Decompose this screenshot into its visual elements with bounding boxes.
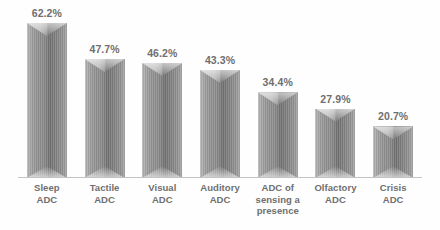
bar-top-facet: [85, 59, 125, 72]
category-label-sleep-adc: Sleep ADC: [18, 182, 76, 228]
bar-column[interactable]: 43.3%: [191, 4, 249, 178]
bar-value-label: 20.7%: [378, 110, 408, 122]
bar-top-highlight: [27, 23, 67, 36]
bar-value-label: 62.2%: [32, 7, 62, 19]
bar-top-facet: [258, 92, 298, 105]
bar-chart: 62.2% 47.7% 46.2% 43.3%: [0, 0, 440, 230]
bar-value-label: 43.3%: [205, 54, 235, 66]
bar-olfactory-adc[interactable]: [315, 109, 355, 179]
bar-top-facet: [27, 23, 67, 36]
bar-tactile-adc[interactable]: [85, 59, 125, 178]
bar-top-facet: [142, 63, 182, 76]
bar-top-facet: [200, 70, 240, 83]
category-label-auditory-adc: Auditory ADC: [191, 182, 249, 228]
bar-value-label: 46.2%: [147, 47, 177, 59]
category-label-adc-of-sensing-a-presence: ADC of sensing a presence: [249, 182, 307, 228]
category-label-crisis-adc: Crisis ADC: [364, 182, 422, 228]
bar-auditory-adc[interactable]: [200, 70, 240, 178]
bar-visual-adc[interactable]: [142, 63, 182, 178]
bar-top-highlight: [315, 109, 355, 122]
x-axis-category-labels: Sleep ADC Tactile ADC Visual ADC Auditor…: [18, 182, 422, 228]
bar-crisis-adc[interactable]: [373, 126, 413, 178]
category-label-tactile-adc: Tactile ADC: [76, 182, 134, 228]
x-axis-line: [18, 177, 422, 178]
bar-top-facet: [373, 126, 413, 139]
bar-column[interactable]: 20.7%: [364, 4, 422, 178]
plot-area: 62.2% 47.7% 46.2% 43.3%: [18, 4, 422, 178]
bar-column[interactable]: 34.4%: [249, 4, 307, 178]
category-label-olfactory-adc: Olfactory ADC: [307, 182, 365, 228]
bar-top-highlight: [373, 126, 413, 139]
bar-value-label: 34.4%: [263, 76, 293, 88]
bar-value-label: 27.9%: [320, 93, 350, 105]
bar-column[interactable]: 47.7%: [76, 4, 134, 178]
bar-top-highlight: [200, 70, 240, 83]
bar-column[interactable]: 46.2%: [133, 4, 191, 178]
bar-top-highlight: [142, 63, 182, 76]
bar-sleep-adc[interactable]: [27, 23, 67, 178]
bar-value-label: 47.7%: [89, 43, 119, 55]
bar-column[interactable]: 62.2%: [18, 4, 76, 178]
bar-top-facet: [315, 109, 355, 122]
category-label-visual-adc: Visual ADC: [133, 182, 191, 228]
bar-top-highlight: [258, 92, 298, 105]
bar-top-highlight: [85, 59, 125, 72]
bar-adc-of-sensing-a-presence[interactable]: [258, 92, 298, 178]
bar-column[interactable]: 27.9%: [307, 4, 365, 178]
